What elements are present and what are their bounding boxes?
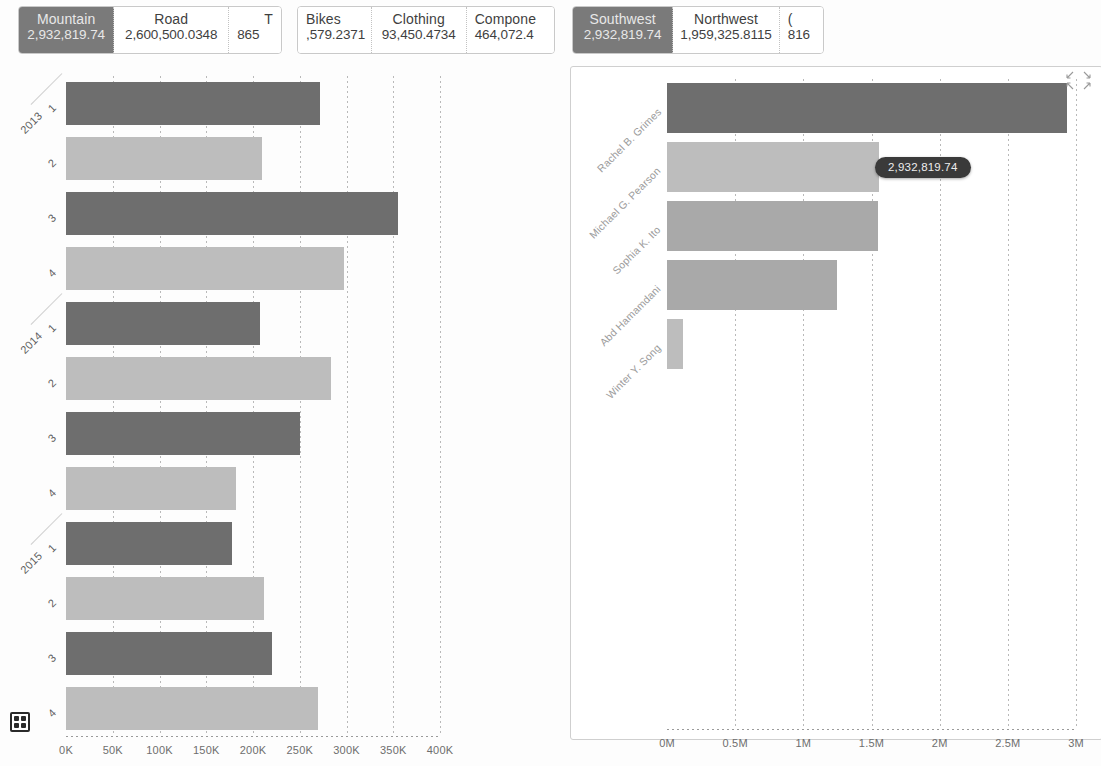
x-tick-label: 250K [287,744,314,756]
bar[interactable] [667,260,837,310]
bar[interactable] [66,577,264,620]
gridline [440,76,441,736]
filter-card-components[interactable]: Compone 464,072.4 [467,7,554,53]
left-x-axis-ticks: 0K50K100K150K200K250K300K350K400K [66,744,440,762]
filter-card-title: ( [788,11,793,27]
grid-cell [14,716,19,721]
x-tick-label: 50K [103,744,123,756]
x-tick-label: 0M [659,737,675,749]
bar[interactable] [66,192,398,235]
filter-card-southwest[interactable]: Southwest 2,932,819.74 [573,7,673,53]
sales-territory-filter[interactable]: Southwest 2,932,819.74 Northwest 1,959,3… [572,6,824,54]
gridline [393,76,394,736]
expand-arrow-bottom-right-icon[interactable] [1081,81,1093,92]
x-tick-label: 1.5M [859,737,884,749]
x-tick-label: 3M [1068,737,1084,749]
quarterly-sales-bar-chart[interactable]: 0K50K100K150K200K250K300K350K400K 120132… [0,60,540,760]
chart-resize-tools[interactable] [1064,70,1098,96]
expand-arrow-top-left-icon[interactable] [1064,70,1076,81]
gridline [1076,79,1077,729]
grid-cell [21,723,26,728]
bar[interactable] [667,83,1067,133]
y-tick-salesperson: Abd Hamamdani [597,283,663,349]
y-tick-quarter: 1 [45,541,58,554]
y-tick-salesperson: Winter Y. Song [604,342,663,401]
filter-card-bikes[interactable]: Bikes ,579.2371 [298,7,372,53]
y-tick-quarter: 4 [45,706,58,719]
y-tick-quarter: 2 [45,596,58,609]
filter-card-title: Clothing [393,11,445,27]
right-plot-area[interactable]: 2,932,819.74 [667,79,1076,729]
filter-card-value: 2,932,819.74 [27,27,105,43]
grid-view-icon[interactable] [10,712,30,732]
filter-card-northwest[interactable]: Northwest 1,959,325.8115 [673,7,780,53]
filter-card-value: 865 [237,27,259,43]
product-subcategory-filter[interactable]: Mountain 2,932,819.74 Road 2,600,500.034… [18,6,282,54]
gridline [300,76,301,736]
value-tooltip: 2,932,819.74 [875,157,971,178]
filter-card-title: Compone [475,11,536,27]
y-tick-quarter: 2 [45,156,58,169]
filter-card-clothing[interactable]: Clothing 93,450.4734 [372,7,467,53]
bar[interactable] [667,201,878,251]
y-tick-quarter: 3 [45,651,58,664]
y-tick-year: 2015 [18,549,44,575]
left-plot-area[interactable] [66,76,440,736]
filter-card-title: T [264,11,273,27]
x-tick-label: 2M [932,737,948,749]
y-tick-quarter: 2 [45,376,58,389]
x-tick-label: 1M [795,737,811,749]
y-tick-year: 2014 [18,329,44,355]
bar[interactable] [66,247,344,290]
year-separator [31,293,63,325]
bar[interactable] [66,412,300,455]
y-tick-quarter: 1 [45,321,58,334]
bar[interactable] [66,137,262,180]
grid-cell [21,716,26,721]
expand-arrow-bottom-left-icon[interactable] [1064,81,1076,92]
filter-card-value: ,579.2371 [306,27,365,43]
y-tick-salesperson: Sophia K. Ito [610,224,663,277]
y-tick-quarter: 3 [45,211,58,224]
filter-card-value: 93,450.4734 [382,27,456,43]
y-tick-year: 2013 [18,109,44,135]
bar[interactable] [66,357,331,400]
filter-card-title: Mountain [37,11,95,27]
salesperson-sales-bar-chart[interactable]: 2,932,819.74 0M0.5M1M1.5M2M2.5M3M Rachel… [570,66,1101,740]
x-tick-label: 0K [59,744,73,756]
bar[interactable] [667,142,879,192]
grid-cell [14,723,19,728]
bar[interactable] [66,632,272,675]
bar[interactable] [66,302,260,345]
filter-card-value: 464,072.4 [475,27,534,43]
bar[interactable] [66,467,236,510]
y-tick-salesperson: Rachel B. Grimes [594,106,663,175]
x-tick-label: 2.5M [995,737,1020,749]
gridline [1008,79,1009,729]
bar[interactable] [66,687,318,730]
filter-card-value: 2,932,819.74 [584,27,662,43]
filter-card-mountain[interactable]: Mountain 2,932,819.74 [19,7,114,53]
y-tick-quarter: 4 [45,486,58,499]
bar[interactable] [667,319,683,369]
bar[interactable] [66,522,232,565]
filter-card-value: 816 [788,27,810,43]
bar[interactable] [66,82,320,125]
filter-card-touring[interactable]: T 865 [229,7,281,53]
y-tick-quarter: 1 [45,101,58,114]
filter-card-title: Bikes [306,11,341,27]
filter-card-value: 2,600,500.0348 [125,27,217,43]
expand-arrow-top-right-icon[interactable] [1081,70,1093,81]
right-x-axis-line [667,729,1076,730]
x-tick-label: 150K [193,744,220,756]
x-tick-label: 300K [333,744,360,756]
filter-card-central[interactable]: ( 816 [780,7,823,53]
filter-card-title: Southwest [589,11,655,27]
dashboard-canvas: Mountain 2,932,819.74 Road 2,600,500.034… [0,0,1101,766]
left-x-axis-line [66,736,440,737]
product-category-filter[interactable]: Bikes ,579.2371 Clothing 93,450.4734 Com… [297,6,555,54]
x-tick-label: 0.5M [723,737,748,749]
year-separator [31,513,63,545]
right-x-axis-ticks: 0M0.5M1M1.5M2M2.5M3M [667,737,1076,755]
filter-card-road[interactable]: Road 2,600,500.0348 [114,7,229,53]
